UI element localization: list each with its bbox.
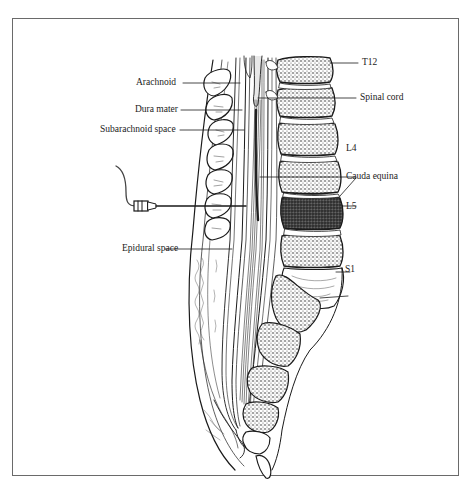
coccyx — [256, 455, 271, 478]
sacral-s2 — [257, 323, 300, 367]
label-epidural-space: Epidural space — [122, 244, 178, 254]
vertebra-l4 — [281, 195, 343, 230]
label-l5: L5 — [346, 202, 357, 212]
sacrum — [243, 275, 321, 478]
spinal-cord — [253, 56, 262, 106]
label-subarachnoid-space: Subarachnoid space — [100, 125, 176, 135]
needle-tubing — [116, 166, 136, 206]
needle-hub — [134, 201, 148, 211]
vertebra-l5 — [281, 233, 343, 268]
label-cauda-equina: Cauda equina — [346, 172, 398, 182]
label-t12: T12 — [362, 58, 377, 68]
label-dura-mater: Dura mater — [135, 105, 178, 115]
label-s1: S1 — [345, 265, 355, 275]
vertebra-l2 — [278, 121, 338, 156]
cauda-equina — [240, 60, 264, 410]
vertebra-t12 — [277, 57, 333, 84]
vertebra-l3 — [279, 159, 341, 194]
sacral-s3 — [247, 366, 288, 403]
label-arachnoid: Arachnoid — [136, 78, 176, 88]
sacral-s5 — [243, 431, 270, 454]
label-l4: L4 — [346, 144, 357, 154]
sacral-s4 — [243, 402, 279, 433]
label-spinal-cord: Spinal cord — [360, 93, 404, 103]
spine-illustration — [0, 0, 474, 488]
vertebra-l1 — [277, 87, 335, 118]
